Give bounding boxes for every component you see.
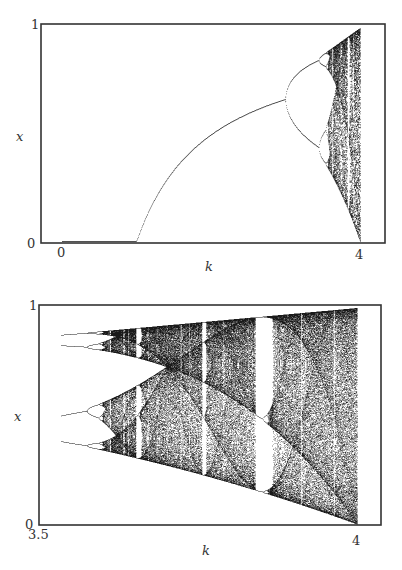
bottom-x-tick-3-5: 3.5 xyxy=(28,528,49,541)
bottom-x-tick-4: 4 xyxy=(352,534,360,547)
bottom-chart-panel: 1 0 3.5 4 k x xyxy=(0,0,402,570)
bifurcation-points xyxy=(61,308,358,525)
bottom-bifurcation-plot xyxy=(0,0,402,570)
bottom-y-tick-1: 1 xyxy=(29,299,37,312)
bottom-y-axis-label: x xyxy=(14,410,21,423)
bottom-x-axis-label: k xyxy=(202,544,210,557)
